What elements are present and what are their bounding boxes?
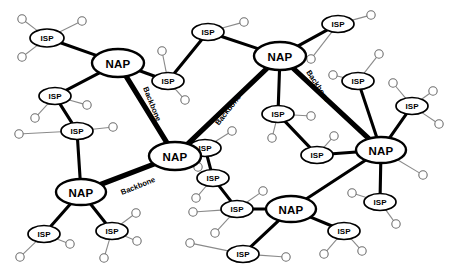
- nap-node-label: NAP: [69, 187, 94, 199]
- isp-node-label: ISP: [105, 227, 119, 236]
- isp-node[interactable]: ISP: [221, 201, 253, 218]
- isp-node-label: ISP: [201, 28, 215, 37]
- network-diagram-canvas: ISPISPISPISPISPISPISPISPISPISPISPISPISPI…: [0, 0, 450, 275]
- isp-node-label: ISP: [351, 77, 365, 86]
- isp-node-label: ISP: [206, 174, 220, 183]
- isp-node-label: ISP: [236, 250, 250, 259]
- end-user-node[interactable]: [330, 132, 338, 140]
- isp-node-label: ISP: [48, 92, 62, 101]
- isp-node-label: ISP: [405, 102, 419, 111]
- nap-node-label: NAP: [279, 204, 304, 216]
- end-user-node[interactable]: [259, 187, 267, 195]
- end-user-node[interactable]: [348, 189, 356, 197]
- nap-node-label: NAP: [163, 151, 188, 163]
- isp-node[interactable]: ISP: [322, 16, 354, 33]
- end-user-node[interactable]: [282, 253, 290, 261]
- end-user-node[interactable]: [228, 127, 236, 135]
- end-user-node[interactable]: [18, 53, 26, 61]
- isp-node[interactable]: ISP: [197, 170, 229, 187]
- end-user-node[interactable]: [389, 79, 397, 87]
- nap-node[interactable]: NAP: [356, 137, 406, 163]
- end-user-node[interactable]: [211, 229, 219, 237]
- end-user-node[interactable]: [358, 247, 366, 255]
- end-user-node[interactable]: [367, 11, 375, 19]
- end-user-node[interactable]: [133, 237, 141, 245]
- end-user-node[interactable]: [240, 18, 248, 26]
- isp-node[interactable]: ISP: [28, 226, 60, 243]
- isp-node-label: ISP: [310, 151, 324, 160]
- end-user-node[interactable]: [16, 253, 24, 261]
- isp-node-label: ISP: [331, 20, 345, 29]
- isp-node-label: ISP: [161, 77, 175, 86]
- leaf-link: [294, 115, 307, 116]
- end-user-node[interactable]: [109, 123, 117, 131]
- isp-node[interactable]: ISP: [301, 147, 333, 164]
- end-user-node[interactable]: [78, 17, 86, 25]
- isp-node-label: ISP: [70, 127, 84, 136]
- end-user-node[interactable]: [186, 239, 194, 247]
- isp-node-label: ISP: [337, 227, 351, 236]
- isp-node[interactable]: ISP: [96, 223, 128, 240]
- end-user-node[interactable]: [307, 112, 315, 120]
- end-user-node[interactable]: [329, 71, 337, 79]
- end-user-node[interactable]: [392, 220, 400, 228]
- end-user-node[interactable]: [181, 96, 189, 104]
- end-user-node[interactable]: [320, 250, 328, 258]
- end-user-node[interactable]: [419, 171, 427, 179]
- network-diagram-svg: ISPISPISPISPISPISPISPISPISPISPISPISPISPI…: [0, 0, 450, 275]
- end-user-node[interactable]: [18, 15, 26, 23]
- end-user-node[interactable]: [189, 208, 197, 216]
- nap-node-label: NAP: [268, 51, 293, 63]
- isp-node-label: ISP: [271, 110, 285, 119]
- end-user-node[interactable]: [435, 120, 443, 128]
- end-user-node[interactable]: [31, 114, 39, 122]
- isp-node[interactable]: ISP: [328, 223, 360, 240]
- nap-node[interactable]: NAP: [92, 49, 144, 77]
- isp-link: [278, 70, 279, 106]
- isp-node[interactable]: ISP: [39, 88, 71, 105]
- isp-node[interactable]: ISP: [396, 98, 428, 115]
- isp-node-label: ISP: [373, 198, 387, 207]
- isp-node[interactable]: ISP: [227, 246, 259, 263]
- nap-node-label: NAP: [106, 58, 131, 70]
- end-user-node[interactable]: [158, 47, 166, 55]
- end-user-node[interactable]: [192, 194, 200, 202]
- nap-node[interactable]: NAP: [56, 179, 106, 205]
- isp-node-label: ISP: [230, 205, 244, 214]
- isp-link: [333, 152, 356, 154]
- isp-node[interactable]: ISP: [61, 123, 93, 140]
- isp-node[interactable]: ISP: [342, 73, 374, 90]
- end-user-node[interactable]: [429, 87, 437, 95]
- end-user-node[interactable]: [15, 130, 23, 138]
- end-user-node[interactable]: [66, 240, 74, 248]
- isp-link: [380, 163, 381, 194]
- isp-node[interactable]: ISP: [152, 73, 184, 90]
- end-user-node[interactable]: [83, 101, 91, 109]
- end-user-node[interactable]: [375, 50, 383, 58]
- nap-node-label: NAP: [369, 145, 394, 157]
- end-user-node[interactable]: [132, 209, 140, 217]
- isp-node[interactable]: ISP: [192, 24, 224, 41]
- end-user-node[interactable]: [100, 254, 108, 262]
- isp-node[interactable]: ISP: [30, 29, 64, 47]
- nap-node[interactable]: NAP: [254, 42, 306, 70]
- isp-node-label: ISP: [40, 34, 54, 43]
- nap-node[interactable]: NAP: [149, 142, 201, 170]
- end-user-node[interactable]: [268, 134, 276, 142]
- isp-node-label: ISP: [37, 230, 51, 239]
- isp-node[interactable]: ISP: [262, 106, 294, 123]
- nap-node[interactable]: NAP: [266, 196, 316, 222]
- isp-node[interactable]: ISP: [364, 194, 396, 211]
- end-user-node[interactable]: [307, 55, 315, 63]
